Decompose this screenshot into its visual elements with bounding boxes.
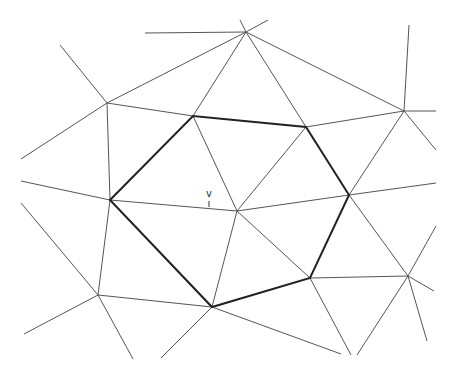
mesh-edge [161, 307, 212, 358]
mesh-edge [110, 200, 237, 211]
mesh-edge [246, 32, 306, 127]
mesh-edge [306, 111, 404, 127]
mesh-edge [21, 103, 107, 159]
mesh-edge [357, 276, 408, 355]
mesh-edge [107, 103, 193, 116]
mesh-edge [193, 116, 237, 211]
mesh-edge [404, 25, 409, 111]
mesh-edge [246, 32, 404, 111]
mesh-edge [21, 203, 98, 295]
mesh-edge [240, 20, 246, 32]
mesh-edge [404, 111, 436, 150]
mesh-edge [24, 295, 98, 334]
mesh-edge [60, 45, 107, 103]
mesh-edge [98, 295, 212, 307]
mesh-svg [0, 0, 456, 376]
mesh-edge [21, 181, 110, 200]
mesh-edge [237, 195, 349, 211]
mesh-edge [349, 183, 436, 195]
mesh-edge [193, 32, 246, 116]
mesh-edge [408, 226, 436, 276]
vertex-label-v: v [206, 188, 212, 199]
mesh-edge [212, 307, 341, 354]
mesh-edge [212, 211, 237, 307]
mesh-edge [98, 200, 110, 295]
mesh-edges [21, 20, 436, 359]
mesh-edge [310, 278, 351, 355]
mesh-edge [98, 295, 133, 359]
mesh-edge [237, 127, 306, 211]
mesh-edge [246, 20, 268, 32]
mesh-edge [107, 103, 110, 200]
mesh-edge [107, 32, 246, 103]
mesh-edge [237, 211, 310, 278]
mesh-edge [145, 32, 246, 33]
mesh-diagram: v [0, 0, 456, 376]
mesh-edge [349, 111, 404, 195]
mesh-edge [310, 276, 408, 278]
mesh-edge [349, 195, 408, 276]
